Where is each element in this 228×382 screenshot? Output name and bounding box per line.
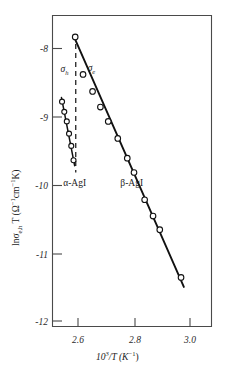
sigma-e-sub: e (92, 68, 95, 75)
alpha-agi-label: α-AgI (63, 178, 86, 188)
y-title-sup1: −1 (9, 198, 16, 205)
data-point (64, 119, 69, 124)
data-point (115, 136, 121, 142)
x-title-sup: −1 (128, 350, 135, 357)
y-ticklabel-1: -9 (40, 113, 48, 123)
data-point (124, 155, 130, 161)
data-point (131, 170, 137, 176)
data-point (105, 119, 111, 125)
y-ticklabel-4: -12 (35, 317, 48, 327)
data-point (60, 99, 65, 104)
x-ticklabel-0: 2.6 (72, 335, 84, 345)
y-title-K: K) (11, 170, 22, 180)
data-point (80, 72, 86, 78)
x-title-mid: /T (K (108, 352, 129, 363)
data-point (71, 158, 76, 163)
data-point (62, 109, 67, 114)
y-ticklabel-2: -10 (35, 181, 48, 191)
data-point (90, 89, 96, 95)
y-ticklabel-3: -11 (36, 250, 48, 260)
data-point (67, 131, 72, 136)
x-ticklabel-1: 2.8 (129, 335, 141, 345)
data-point (69, 143, 74, 148)
y-title-sup2: −1 (9, 180, 16, 187)
x-title-end: ) (135, 352, 138, 363)
data-point (142, 197, 148, 203)
chart-svg: -8 -9 -10 -11 -12 2.6 2.8 3.0 103/T (K−1… (0, 0, 228, 382)
x-title-base: 10 (96, 352, 106, 362)
x-ticklabel-2: 3.0 (183, 335, 196, 345)
chart-background (0, 0, 228, 382)
data-point (178, 275, 184, 281)
beta-agi-label: β-AgI (120, 178, 143, 188)
figure-container: -8 -9 -10 -11 -12 2.6 2.8 3.0 103/T (K−1… (0, 0, 228, 382)
y-title-T: T (Ω (11, 205, 22, 225)
data-point (72, 34, 78, 40)
y-title-cm: cm (11, 186, 21, 198)
data-point (98, 104, 104, 110)
y-ticklabel-0: -8 (40, 44, 48, 54)
data-point (157, 227, 163, 233)
data-point (150, 213, 156, 219)
